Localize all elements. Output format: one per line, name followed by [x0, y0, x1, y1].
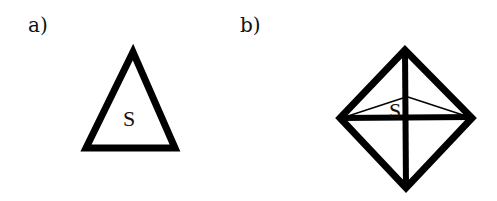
- triangle-s-label: S: [123, 106, 135, 131]
- horizontal-axis-line: [340, 117, 472, 118]
- triangle-shape: [86, 52, 175, 148]
- panel-b-label: b): [240, 13, 261, 37]
- panel-a: a) S: [28, 13, 175, 148]
- panel-b: b) S: [240, 13, 472, 188]
- panel-a-label: a): [28, 13, 48, 37]
- diamond-s-label: S: [389, 98, 401, 123]
- diagram-canvas: a) S b) S: [0, 0, 497, 201]
